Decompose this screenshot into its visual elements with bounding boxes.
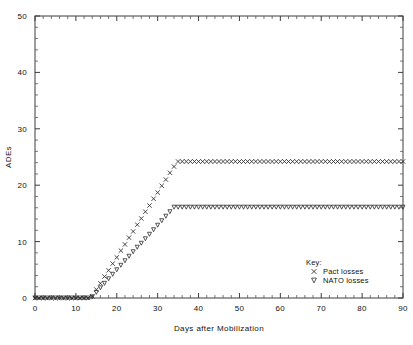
y-tick-label: 20 <box>18 181 28 190</box>
y-tick-label: 30 <box>18 125 28 134</box>
x-tick-label: 10 <box>71 304 81 313</box>
x-tick-label: 0 <box>33 304 38 313</box>
legend-entry-label: Pact losses <box>323 267 364 276</box>
y-tick-label: 40 <box>18 68 28 77</box>
legend-entry-label: NATO losses <box>323 276 369 285</box>
x-tick-label: 80 <box>357 304 367 313</box>
y-tick-label: 10 <box>18 238 28 247</box>
y-tick-label: 50 <box>18 12 28 21</box>
x-tick-label: 90 <box>398 304 408 313</box>
legend-title: Key: <box>306 258 322 267</box>
x-axis-title: Days after Mobilization <box>174 324 264 333</box>
x-tick-label: 60 <box>276 304 286 313</box>
x-tick-label: 50 <box>235 304 245 313</box>
plot-background <box>0 0 413 345</box>
scatter-plot: 0102030405060708090 01020304050 Days aft… <box>0 0 413 345</box>
x-tick-label: 70 <box>316 304 326 313</box>
x-tick-label: 20 <box>112 304 122 313</box>
chart-container: 0102030405060708090 01020304050 Days aft… <box>0 0 413 345</box>
y-axis-title: ADEs <box>4 146 13 168</box>
y-tick-label: 0 <box>22 294 27 303</box>
x-tick-label: 40 <box>194 304 204 313</box>
x-tick-label: 30 <box>153 304 163 313</box>
